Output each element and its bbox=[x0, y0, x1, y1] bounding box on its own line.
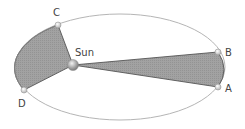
sector-cd bbox=[14, 25, 73, 90]
sector-ab bbox=[73, 52, 224, 87]
sun-icon bbox=[68, 60, 79, 71]
label-b: B bbox=[225, 47, 232, 58]
label-a: A bbox=[225, 83, 232, 94]
label-sun: Sun bbox=[75, 47, 94, 58]
point-a bbox=[215, 84, 221, 90]
point-c bbox=[55, 22, 61, 28]
point-b bbox=[215, 49, 221, 55]
orbit-diagram: C D Sun B A bbox=[0, 0, 245, 129]
label-d: D bbox=[18, 98, 26, 109]
label-c: C bbox=[53, 7, 60, 18]
point-d bbox=[21, 87, 27, 93]
